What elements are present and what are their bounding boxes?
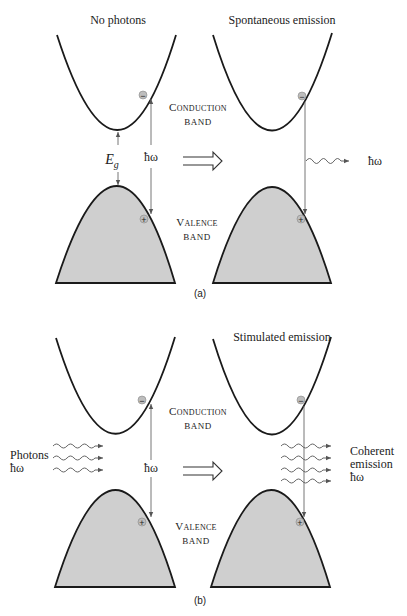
coherent-photon-wave-icon <box>281 468 331 472</box>
photon-energy-label: ħω <box>144 150 158 164</box>
part-b-label: (b) <box>194 595 206 606</box>
conduction-band-curve <box>57 35 176 130</box>
photon-energy-label: ħω <box>144 461 158 475</box>
conduction-band-curve <box>213 337 331 435</box>
valence-band-label: Valence <box>176 216 218 228</box>
conduction-band-label-2: band <box>184 117 212 127</box>
valence-band-filled <box>213 187 331 283</box>
gap-label: Eg <box>104 152 119 170</box>
incoming-photon-wave-icon <box>53 456 103 460</box>
conduction-band-label: Conduction <box>169 101 227 113</box>
svg-text:−: − <box>139 396 144 406</box>
title-spontaneous-emission: Spontaneous emission <box>229 13 336 27</box>
coherent-photon-wave-icon <box>281 479 331 483</box>
emitted-photon-wave-icon <box>306 159 349 164</box>
conduction-band-curve <box>56 337 175 434</box>
valence-band-label-2: band <box>182 536 210 546</box>
svg-text:+: + <box>297 518 302 528</box>
transition-arrow-icon <box>183 152 222 170</box>
coherent-emission-label-2: emission <box>350 457 393 471</box>
valence-band-filled <box>56 186 175 283</box>
svg-text:+: + <box>141 215 146 225</box>
coherent-photon-wave-icon <box>281 444 331 448</box>
svg-text:+: + <box>298 215 303 225</box>
incoming-photons-energy: ħω <box>10 461 24 475</box>
title-stimulated-emission: Stimulated emission <box>233 330 331 344</box>
transition-arrow-icon <box>183 462 222 480</box>
svg-text:−: − <box>298 396 303 406</box>
incoming-photon-wave-icon <box>53 444 103 448</box>
svg-text:−: − <box>140 91 145 101</box>
valence-band-filled <box>55 490 175 587</box>
svg-text:+: + <box>139 518 144 528</box>
emitted-photon-label: ħω <box>368 154 382 168</box>
incoming-photons-label: Photons <box>10 448 49 462</box>
title-no-photons: No photons <box>90 13 146 27</box>
coherent-emission-energy: ħω <box>350 470 364 484</box>
coherent-photon-wave-icon <box>281 456 331 460</box>
valence-band-label-2: band <box>183 232 211 242</box>
valence-band-label: Valence <box>175 520 217 532</box>
incoming-photon-wave-icon <box>53 468 103 472</box>
svg-text:−: − <box>299 92 304 102</box>
band-diagram-figure: No photons Spontaneous emission Eg ħω − … <box>0 0 407 616</box>
conduction-band-label-2: band <box>184 421 212 431</box>
conduction-band-label: Conduction <box>169 405 227 417</box>
valence-band-filled <box>211 490 330 587</box>
coherent-emission-label: Coherent <box>350 444 395 458</box>
conduction-band-curve <box>213 33 332 131</box>
part-a-label: (a) <box>194 288 206 299</box>
